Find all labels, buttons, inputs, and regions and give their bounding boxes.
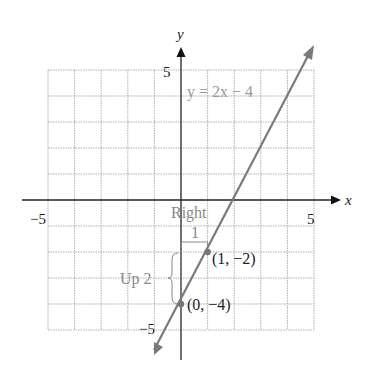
- line-arrow-up-icon: [303, 45, 314, 60]
- x-tick-5: 5: [307, 211, 315, 227]
- run-amount-label: 1: [191, 224, 199, 241]
- x-tick-neg5: −5: [30, 211, 46, 227]
- point-0-neg4-label: (0, −4): [187, 296, 231, 314]
- x-axis-arrow-icon: [331, 196, 341, 205]
- point-1-neg2-label: (1, −2): [212, 250, 256, 268]
- y-axis-arrow-icon: [177, 47, 186, 57]
- right-label: Right: [171, 204, 207, 222]
- y-tick-neg5: −5: [139, 321, 155, 337]
- coordinate-plane: y x 5 −5 −5 5 y = 2x − 4 Right 1 Up 2 (1…: [0, 0, 368, 368]
- y-axis-label: y: [175, 26, 184, 42]
- x-axis-label: x: [344, 192, 352, 208]
- point-0-neg4: [178, 301, 184, 307]
- rise-run-markers: [168, 242, 208, 304]
- point-1-neg2: [204, 249, 210, 255]
- y-tick-5: 5: [163, 64, 171, 80]
- up-2-label: Up 2: [120, 270, 152, 288]
- equation-label: y = 2x − 4: [187, 83, 253, 101]
- line-arrow-down-icon: [154, 342, 163, 355]
